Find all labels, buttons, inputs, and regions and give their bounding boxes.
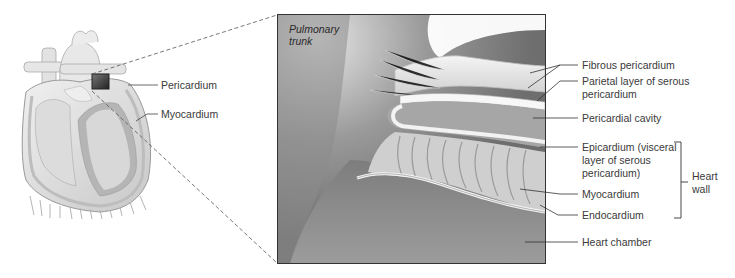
label-fibrous-pericardium: Fibrous pericardium xyxy=(582,59,675,71)
label-epicardium-line3: pericardium) xyxy=(582,167,640,179)
heart-wall-detail-panel xyxy=(278,15,545,263)
label-pericardial-cavity: Pericardial cavity xyxy=(582,112,661,124)
label-parietal-line1: Parietal layer of serous xyxy=(582,75,689,87)
heart-wall-bracket xyxy=(674,142,681,218)
label-myocardium-overview: Myocardium xyxy=(161,108,218,120)
label-parietal-line2: pericardium xyxy=(582,88,637,100)
label-myocardium-detail: Myocardium xyxy=(582,188,639,200)
label-epicardium-line1: Epicardium (visceral xyxy=(582,141,677,153)
label-endocardium: Endocardium xyxy=(582,209,644,221)
label-heart-chamber: Heart chamber xyxy=(582,236,651,248)
heart-overview-illustration xyxy=(22,31,150,219)
label-heart-wall-line2: wall xyxy=(692,183,710,195)
label-pericardium: Pericardium xyxy=(161,79,217,91)
zoom-region-box xyxy=(92,74,109,89)
label-heart-wall-line1: Heart xyxy=(692,170,718,182)
label-pulmonary-trunk-line2: trunk xyxy=(289,35,312,47)
label-epicardium-line2: layer of serous xyxy=(582,154,651,166)
label-pulmonary-trunk-line1: Pulmonary xyxy=(289,23,339,35)
